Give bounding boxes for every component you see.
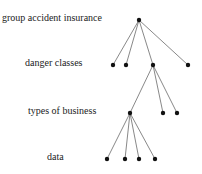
tree-edge	[107, 113, 130, 159]
tree-edge	[130, 113, 155, 159]
tree-edge	[153, 65, 163, 113]
tree-edge	[153, 65, 177, 113]
tree-edge	[130, 65, 153, 113]
tree-edge	[113, 20, 139, 65]
tree-node	[137, 157, 141, 161]
tree-node	[153, 157, 157, 161]
tree-node	[161, 111, 165, 115]
tree-node	[105, 157, 109, 161]
tree-node	[128, 111, 132, 115]
tree-node	[123, 157, 127, 161]
hierarchy-tree	[0, 0, 202, 174]
tree-edge	[125, 113, 130, 159]
tree-node	[175, 111, 179, 115]
tree-edge	[130, 113, 139, 159]
tree-node	[151, 63, 155, 67]
tree-node	[186, 63, 190, 67]
tree-node	[111, 63, 115, 67]
tree-edge	[126, 20, 139, 65]
tree-node	[124, 63, 128, 67]
tree-node	[137, 18, 141, 22]
